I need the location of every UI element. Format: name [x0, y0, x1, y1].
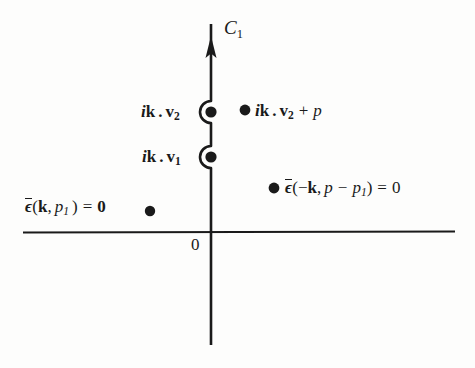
dot-operator: .	[159, 147, 163, 166]
plus-operator: +	[299, 101, 309, 120]
contour-label-subscript: 1	[237, 27, 243, 41]
dispersion-label-positive-k: ϵ(k,p1)=0	[25, 198, 106, 218]
open-paren-minus: (−	[292, 178, 307, 197]
pole-label-ikv2: ik.v2	[141, 103, 180, 123]
zero-value: 0	[97, 197, 106, 216]
real-axis	[23, 232, 455, 233]
equals-operator: =	[83, 197, 93, 216]
contour-label-c1: C1	[224, 18, 243, 40]
equals-operator: =	[377, 178, 387, 197]
dispersion-label-negative-k: ϵ(−k,p−p1)=0	[285, 179, 400, 199]
velocity-subscript: 2	[288, 109, 294, 122]
close-paren: )	[72, 197, 78, 216]
close-paren: )	[367, 178, 373, 197]
pole-label-ikv2-plus-p: ik.v2+p	[255, 102, 322, 122]
velocity-subscript: 1	[175, 155, 181, 168]
complex-plane-contour-figure: C1 ik.v2 ik.v1 ik.v2+p ϵ(−k,p−p1)=0 ϵ(k,…	[0, 0, 475, 368]
p-subscript: 1	[63, 205, 69, 218]
pole-label-ikv1: ik.v1	[142, 148, 181, 168]
dot-operator: .	[158, 102, 162, 121]
wavevector-k: k	[308, 178, 317, 197]
minus-operator: −	[338, 178, 348, 197]
pole-dot-eps-pos-k	[145, 206, 155, 216]
pole-dot-eps-neg-k	[269, 183, 280, 194]
velocity-subscript: 2	[174, 110, 180, 123]
comma: ,	[47, 197, 51, 216]
zero-value: 0	[392, 178, 401, 197]
pole-dot-ikv2-plus-p	[240, 105, 251, 116]
pole-dot-ikv2	[205, 106, 216, 117]
laplace-variable-p: p	[324, 178, 333, 197]
wavevector-k: k	[147, 147, 156, 166]
laplace-variable-p: p	[313, 101, 322, 120]
comma: ,	[317, 178, 321, 197]
velocity-v: v	[165, 102, 174, 121]
velocity-v: v	[279, 101, 288, 120]
contour-line-c1	[200, 24, 211, 345]
pole-dot-ikv1	[205, 151, 216, 162]
contour-label-letter: C	[224, 17, 237, 38]
laplace-variable-p1: p	[352, 178, 361, 197]
figure-canvas	[0, 0, 475, 368]
dot-operator: .	[272, 101, 276, 120]
wavevector-k: k	[260, 101, 269, 120]
velocity-v: v	[166, 147, 175, 166]
laplace-variable-p1: p	[55, 197, 64, 216]
origin-label: 0	[191, 236, 200, 253]
wavevector-k: k	[146, 102, 155, 121]
